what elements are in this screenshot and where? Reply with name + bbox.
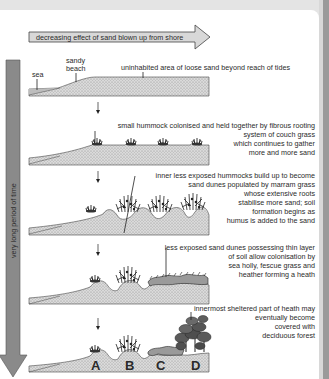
zone-label-b: B bbox=[125, 358, 134, 373]
down-arrow-head-4 bbox=[96, 326, 100, 330]
stage-3-desc-line2: sand dunes populated by marram grass bbox=[188, 180, 315, 189]
time-arrow-label: very long period of time bbox=[9, 183, 18, 258]
sea-label: sea bbox=[32, 70, 44, 79]
stage-4: less exposed sand dunes possessing thin … bbox=[29, 243, 316, 304]
stage-5-desc-line2: eventually become bbox=[255, 313, 315, 322]
stage-3-desc-line3: whose extensive roots bbox=[243, 189, 316, 198]
stage-5-desc-line1: innermost sheltered part of heath may bbox=[194, 304, 315, 313]
stage-2-desc-line4: more and more sand bbox=[249, 148, 315, 157]
zone-label-c: C bbox=[156, 358, 166, 373]
time-arrow: very long period of time bbox=[0, 60, 27, 377]
down-arrow-head-1 bbox=[96, 110, 100, 114]
stage-3-desc-line5: formation begins as bbox=[252, 207, 315, 216]
stage-2-desc-line1: small hummock colonised and held togethe… bbox=[118, 121, 315, 130]
deciduous-forest bbox=[175, 316, 211, 353]
stage-3-desc-line6: humus is added to the sand bbox=[227, 216, 315, 225]
stage-5: innermost sheltered part of heath may ev… bbox=[29, 304, 315, 373]
loose-sand-label: uninhabited area of loose sand beyond re… bbox=[121, 63, 290, 72]
stage-2: small hummock colonised and held togethe… bbox=[29, 121, 316, 165]
sand-effect-arrow-label: decreasing effect of sand blown up from … bbox=[36, 33, 183, 42]
sand-effect-arrow: decreasing effect of sand blown up from … bbox=[29, 25, 210, 49]
zone-label-d: D bbox=[191, 358, 200, 373]
sandy-beach-label-line2: beach bbox=[66, 64, 86, 73]
stage-4-desc-line4: heather forming a heath bbox=[239, 270, 315, 279]
down-arrow-head-2 bbox=[96, 179, 100, 183]
stage-2-desc-line3: which continues to gather bbox=[232, 139, 315, 148]
stage-3-desc-line4: stabilise more sand; soil bbox=[238, 198, 315, 207]
stage-4-desc-line1: less exposed sand dunes possessing thin … bbox=[165, 243, 316, 252]
stage-3: inner less exposed hummocks build up to … bbox=[29, 171, 315, 235]
stage-5-desc-line3: covered with bbox=[275, 322, 315, 331]
stage-5-desc-line4: deciduous forest bbox=[262, 331, 315, 340]
stage-2-desc-line2: system of couch grass bbox=[243, 130, 315, 139]
stage-4-desc-line3: sea holly, fescue grass and bbox=[228, 261, 315, 270]
down-arrow-head-3 bbox=[96, 252, 100, 256]
zone-label-a: A bbox=[91, 358, 101, 373]
stage-4-desc-line2: of soil allow colonisation by bbox=[228, 252, 315, 261]
stage-3-desc-line1: inner less exposed hummocks build up to … bbox=[156, 171, 315, 180]
stage-1: sea sandy beach uninhabited area of loos… bbox=[29, 56, 290, 96]
sand-dune-succession-diagram: decreasing effect of sand blown up from … bbox=[0, 0, 329, 379]
